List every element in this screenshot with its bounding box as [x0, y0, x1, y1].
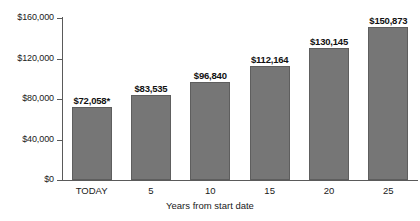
y-axis-tick-label: $80,000 — [22, 93, 54, 103]
x-axis-line — [62, 180, 418, 181]
y-axis-tick — [57, 140, 62, 141]
bar-value-label: $83,535 — [111, 83, 191, 94]
y-axis-tick-label: $120,000 — [17, 53, 54, 63]
y-axis-tick-label: $40,000 — [22, 134, 54, 144]
bar — [368, 27, 408, 180]
bar-value-label: $96,840 — [170, 70, 250, 81]
bar — [131, 95, 171, 180]
y-axis-tick — [57, 180, 62, 181]
bar-value-label: $150,873 — [348, 15, 420, 26]
y-axis-tick-label: $0 — [44, 174, 54, 184]
x-axis-tick-label: 25 — [348, 185, 420, 196]
bar — [309, 48, 349, 180]
bar-chart: $0$40,000$80,000$120,000$160,000 $72,058… — [0, 0, 420, 221]
bar-value-label: $112,164 — [230, 54, 310, 65]
bar-value-label: $72,058* — [52, 95, 132, 106]
y-axis-tick — [57, 59, 62, 60]
y-axis-tick — [57, 18, 62, 19]
bar — [72, 107, 112, 180]
y-axis-tick-label: $160,000 — [17, 12, 54, 22]
x-axis-title: Years from start date — [0, 200, 420, 211]
bar — [250, 66, 290, 180]
bar-value-label: $130,145 — [289, 36, 369, 47]
bar — [190, 82, 230, 180]
